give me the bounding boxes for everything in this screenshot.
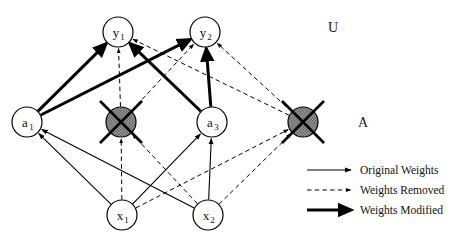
node-a3[interactable]: a3	[197, 107, 227, 137]
edge-x1-to-a2	[121, 138, 122, 199]
legend-label-original: Original Weights	[360, 164, 439, 177]
legend-label-modified: Weights Modified	[360, 204, 443, 217]
node-subscript-x1: 1	[124, 215, 129, 225]
node-subscript-y1: 1	[120, 32, 125, 42]
edge-a1-to-y2	[41, 39, 190, 115]
node-subscript-a3: 3	[214, 122, 219, 132]
node-label-y2: y	[200, 25, 207, 40]
figure-canvas: a1a3y1y2x1x2 U A Original WeightsWeights…	[0, 0, 466, 241]
edge-x2-to-a1	[42, 130, 195, 208]
node-x1[interactable]: x1	[107, 200, 137, 230]
layer-label-group: U A	[328, 20, 369, 130]
node-label-a3: a	[207, 115, 213, 130]
node-subscript-a1: 1	[29, 122, 34, 132]
output-layer-label: U	[328, 20, 338, 35]
node-label-x2: x	[203, 208, 210, 223]
node-subscript-x2: 2	[210, 215, 215, 225]
node-layer: a1a3y1y2x1x2	[12, 17, 324, 230]
legend-item-original: Original Weights	[307, 164, 439, 177]
node-y1[interactable]: y1	[103, 17, 133, 47]
legend-item-modified: Weights Modified	[307, 204, 443, 217]
edge-x1-to-a1	[39, 134, 111, 205]
node-a4[interactable]	[282, 101, 324, 143]
node-label-y1: y	[113, 25, 120, 40]
edge-x1-to-a4	[136, 130, 289, 208]
legend-item-removed: Weights Removed	[307, 184, 445, 197]
edge-a2-to-y1	[119, 48, 121, 106]
edge-a3-to-y2	[206, 48, 211, 106]
node-x2[interactable]: x2	[193, 200, 223, 230]
edge-a4-to-y2	[217, 43, 291, 111]
node-a1[interactable]: a1	[12, 107, 42, 137]
legend-label-removed: Weights Removed	[360, 184, 445, 197]
edge-a1-to-y1	[38, 44, 106, 111]
node-label-a1: a	[22, 115, 28, 130]
edge-x2-to-a3	[209, 138, 212, 199]
edge-layer	[38, 39, 292, 208]
node-label-x1: x	[117, 208, 124, 223]
network-diagram: a1a3y1y2x1x2 U A Original WeightsWeights…	[0, 0, 466, 241]
node-y2[interactable]: y2	[190, 17, 220, 47]
legend: Original WeightsWeights RemovedWeights M…	[307, 164, 445, 217]
edge-x2-to-a4	[219, 134, 291, 205]
node-subscript-y2: 2	[207, 32, 212, 42]
hidden-layer-label: A	[358, 115, 369, 130]
node-a2[interactable]	[100, 101, 142, 143]
